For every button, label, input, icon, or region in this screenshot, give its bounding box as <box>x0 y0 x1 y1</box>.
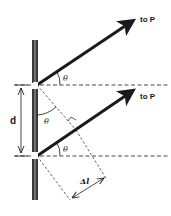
right-angle-marker <box>68 117 76 121</box>
ray-lower <box>37 92 131 156</box>
slit-lower <box>33 153 38 159</box>
barrier-wall <box>32 40 38 200</box>
label-to-p-upper: to P <box>140 15 156 24</box>
slit-upper <box>33 82 38 88</box>
angle-arc-upper <box>57 72 60 85</box>
label-theta-upper: θ <box>63 74 68 83</box>
label-theta-lower: θ <box>63 145 68 154</box>
angle-arc-middle <box>37 107 56 115</box>
label-to-p-lower: to P <box>140 92 156 101</box>
ray-upper <box>37 22 131 85</box>
double-slit-diagram: to P to P d θ θ θ Δl <box>0 0 171 216</box>
label-theta-middle: θ <box>44 117 49 126</box>
label-d: d <box>10 115 16 126</box>
angle-arc-lower <box>57 143 60 156</box>
label-delta-l: Δl <box>79 176 89 186</box>
